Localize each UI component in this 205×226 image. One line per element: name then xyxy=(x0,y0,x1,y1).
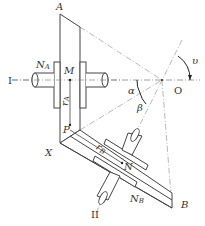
label-alpha: α xyxy=(128,85,135,96)
label-M: M xyxy=(63,65,75,76)
hub-A-right xyxy=(80,62,86,108)
label-A: A xyxy=(55,1,63,12)
line-A-O xyxy=(80,27,162,80)
label-NA: NA xyxy=(35,59,50,71)
label-upsilon: υ xyxy=(192,55,198,66)
label-P: P xyxy=(62,124,70,135)
label-B: B xyxy=(180,199,188,210)
label-O: O xyxy=(174,85,182,96)
label-shaft-I: I xyxy=(8,75,12,86)
point-M xyxy=(69,79,71,81)
point-N xyxy=(121,162,123,164)
angle-alpha-arc xyxy=(137,80,140,93)
label-shaft-II: II xyxy=(91,209,99,220)
label-N: N xyxy=(123,161,134,172)
hub-A xyxy=(54,62,60,108)
label-beta: β xyxy=(136,102,143,113)
point-O xyxy=(161,79,163,81)
label-NB: NB xyxy=(129,193,144,205)
label-X: X xyxy=(44,147,53,158)
angle-upsilon-arc xyxy=(178,56,190,80)
gear-diagram: A B O X M P N I II NA NB rA rB α β υ xyxy=(0,0,205,226)
